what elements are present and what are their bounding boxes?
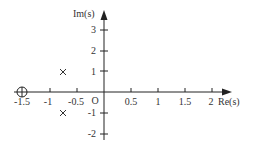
y-tick-label: -2 — [88, 128, 96, 139]
x-tick-label: 0.5 — [125, 96, 138, 107]
pole-marker-lower — [60, 110, 66, 116]
y-axis-label: Im(s) — [73, 8, 95, 20]
origin-label: O — [91, 95, 98, 106]
y-tick-label: 2 — [91, 45, 96, 56]
x-tick-label: -1.5 — [14, 96, 30, 107]
pole-marker-upper — [60, 69, 66, 75]
x-tick-label: -0.5 — [68, 96, 84, 107]
x-ticks — [50, 88, 212, 92]
x-axis-label: Re(s) — [218, 96, 240, 108]
y-tick-label: -1 — [88, 107, 96, 118]
x-tick-label: 2 — [209, 96, 214, 107]
x-tick-label: 1.5 — [179, 96, 192, 107]
pole-zero-plot: -1.5 -1 -0.5 0.5 1 1.5 2 3 2 1 -1 -2 O R… — [0, 0, 255, 149]
real-axis-arrow-icon — [222, 89, 232, 96]
imag-axis-arrow-icon — [101, 10, 108, 20]
x-tick-label: 1 — [156, 96, 161, 107]
y-tick-label: 1 — [91, 66, 96, 77]
y-tick-label: 3 — [91, 24, 96, 35]
x-tick-label: -1 — [44, 96, 52, 107]
